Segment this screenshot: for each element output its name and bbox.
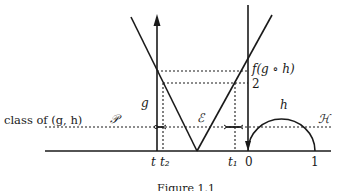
g-label: g [141,97,149,109]
h-semicircle [248,119,315,151]
t1-arrow-icon [224,125,243,129]
t1-label: t₁ [228,156,238,168]
H-label: ℋ [318,113,330,125]
t-label: t [151,156,156,168]
two-label: 2 [252,78,260,90]
up-arrowhead-icon [154,14,161,26]
E-label: ℰ [197,112,204,124]
t2-label: t₂ [160,156,170,168]
t-left-arrow-icon [154,125,166,129]
one-label: 1 [311,156,319,168]
v-left-leg [131,17,197,151]
P-label: 𝒫 [110,113,119,125]
h-label: h [280,99,288,111]
fgh-label: f(g ∘ h) [252,63,295,75]
figure-caption: Figure 1.1 [157,183,215,191]
class-of-gh-label: class of (g, h) [4,115,82,127]
fgh-text: f(g ∘ h) [252,62,295,76]
zero-label: 0 [245,156,253,168]
